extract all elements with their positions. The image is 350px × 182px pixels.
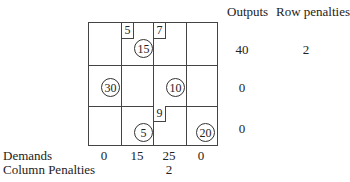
demand-value: 15 — [122, 148, 152, 164]
column-penalty: 2 — [154, 162, 184, 178]
output-value: 40 — [227, 42, 257, 58]
cost-box: 9 — [153, 106, 166, 122]
column-penalties-label: Column Penalties — [3, 162, 95, 178]
cost-box: 7 — [153, 23, 166, 39]
cost-box: 5 — [121, 23, 134, 39]
demand-value: 0 — [186, 148, 216, 164]
allocation-circle: 20 — [196, 123, 215, 142]
allocation-circle: 15 — [134, 39, 153, 58]
allocation-circle: 10 — [166, 78, 185, 97]
row-penalties-header: Row penalties — [276, 4, 350, 20]
allocation-circle: 30 — [101, 78, 120, 97]
outputs-header: Outputs — [227, 4, 268, 20]
output-value: 0 — [227, 121, 257, 137]
allocation-circle: 5 — [134, 123, 153, 142]
row-penalty: 2 — [291, 42, 321, 58]
output-value: 0 — [227, 80, 257, 96]
cost-grid: 5 7 9 15 30 10 5 20 — [88, 22, 218, 146]
